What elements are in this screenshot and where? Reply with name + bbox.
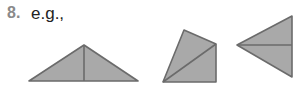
shape-outline	[237, 16, 292, 77]
shape-outline	[163, 30, 216, 82]
wide-isosceles-triangle	[29, 45, 138, 81]
shapes-figure	[0, 0, 301, 92]
quadrilateral-with-diagonal	[163, 30, 216, 82]
left-pointing-triangle	[237, 16, 292, 77]
